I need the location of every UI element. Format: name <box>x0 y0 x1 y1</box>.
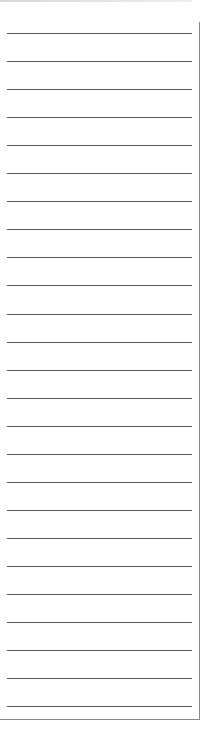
ruled-lines <box>0 0 200 719</box>
ruled-line <box>7 482 192 483</box>
ruled-line <box>7 61 192 62</box>
ruled-line <box>7 426 192 427</box>
ruled-line <box>7 538 192 539</box>
ruled-line <box>7 229 192 230</box>
ruled-line <box>7 510 192 511</box>
ruled-line <box>7 398 192 399</box>
ruled-line <box>7 145 192 146</box>
ruled-line <box>7 89 192 90</box>
ruled-line <box>7 201 192 202</box>
ruled-line <box>7 342 192 343</box>
ruled-line <box>7 117 192 118</box>
ruled-line <box>7 678 192 679</box>
ruled-line <box>7 650 192 651</box>
ruled-line <box>7 370 192 371</box>
ruled-line <box>7 285 192 286</box>
ruled-line <box>7 33 192 34</box>
ruled-line <box>7 594 192 595</box>
ruled-line <box>7 173 192 174</box>
ruled-line <box>7 314 192 315</box>
ruled-line <box>7 257 192 258</box>
bottom-border <box>0 719 200 720</box>
ruled-line <box>7 454 192 455</box>
ruled-line <box>7 706 192 707</box>
ruled-line <box>7 622 192 623</box>
lined-paper-panel[interactable] <box>0 0 200 719</box>
right-border <box>199 22 200 720</box>
ruled-line <box>7 566 192 567</box>
